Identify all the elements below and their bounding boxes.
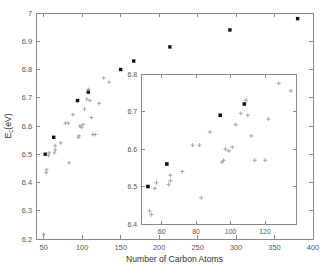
inset-axes: 60801001206.46.56.66.76.8 xyxy=(127,71,296,236)
y-tick-label: 6.9 xyxy=(22,37,32,46)
inset-x-tick-label: 100 xyxy=(225,228,237,235)
data-point-square xyxy=(243,102,247,106)
data-point-cross xyxy=(107,80,111,84)
plot-canvas: 60801001206.46.56.66.76.8 50100150200250… xyxy=(0,0,321,268)
data-point-square xyxy=(76,99,79,102)
data-point-cross xyxy=(71,113,75,117)
y-axis-label: Ec(eV) xyxy=(3,113,14,138)
data-point-cross xyxy=(46,154,50,158)
data-point-cross xyxy=(53,144,57,148)
x-tick-label: 100 xyxy=(76,243,88,252)
scatter-figure: 60801001206.46.56.66.76.8 50100150200250… xyxy=(0,0,321,268)
data-point-square xyxy=(132,59,135,62)
data-point-square xyxy=(296,17,299,20)
inset-y-tick-label: 6.8 xyxy=(127,71,137,78)
data-point-cross xyxy=(53,151,57,155)
y-tick-label: 6.6 xyxy=(22,122,32,131)
inset-y-tick-label: 6.4 xyxy=(127,221,137,228)
data-point-cross xyxy=(67,161,71,165)
x-tick-label: 150 xyxy=(114,243,126,252)
y-tick-label: 6.8 xyxy=(22,65,32,74)
inset-x-tick-label: 120 xyxy=(259,228,271,235)
x-tick-label: 200 xyxy=(153,243,165,252)
x-tick-label: 350 xyxy=(268,243,280,252)
data-point-square xyxy=(218,113,222,117)
inset-y-tick-label: 6.7 xyxy=(127,108,137,115)
data-point-cross xyxy=(90,116,94,120)
data-point-cross xyxy=(83,107,87,111)
data-point-square xyxy=(52,136,55,139)
y-tick-label: 6.5 xyxy=(22,150,32,159)
y-tick-label: 7 xyxy=(28,9,32,18)
inset-y-tick-label: 6.6 xyxy=(127,146,137,153)
data-point-square xyxy=(119,68,122,71)
data-point-cross xyxy=(42,233,46,237)
data-point-cross xyxy=(59,141,63,145)
data-point-square xyxy=(168,45,171,48)
x-tick-label: 400 xyxy=(307,243,319,252)
data-point-cross xyxy=(93,133,97,137)
data-point-square xyxy=(146,185,150,189)
y-tick-label: 6.7 xyxy=(22,93,32,102)
x-axis-label: Number of Carbon Atoms xyxy=(126,254,223,264)
y-tick-label: 6.4 xyxy=(22,178,32,187)
x-tick-label: 300 xyxy=(230,243,242,252)
x-tick-label: 50 xyxy=(40,243,48,252)
inset-plot-frame xyxy=(141,74,296,224)
data-point-cross xyxy=(97,102,101,106)
data-point-cross xyxy=(102,76,106,80)
data-point-cross xyxy=(44,171,48,175)
inset-y-tick-label: 6.5 xyxy=(127,183,137,190)
data-point-cross xyxy=(47,151,51,155)
y-tick-label: 6.3 xyxy=(22,206,32,215)
data-point-cross xyxy=(53,148,57,152)
inset-x-tick-label: 60 xyxy=(158,228,166,235)
y-tick-label: 6.2 xyxy=(22,235,32,244)
data-point-cross xyxy=(45,168,49,172)
data-point-cross xyxy=(66,121,70,125)
x-tick-label: 250 xyxy=(191,243,203,252)
inset-x-tick-label: 80 xyxy=(192,228,200,235)
data-point-square xyxy=(228,28,231,31)
data-point-square xyxy=(165,162,169,166)
